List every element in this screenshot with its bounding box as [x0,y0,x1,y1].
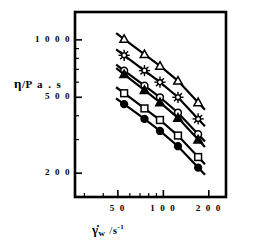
data-point-open-square [121,90,128,97]
y-tick-label: 5 0 0 [45,91,71,101]
data-point-open-square [195,154,202,161]
data-point-open-square [157,117,164,124]
y-axis-unit: P a . s [25,78,62,90]
data-point-open-square [141,105,148,112]
x-tick-label: 5 0 [110,203,126,213]
data-point-filled-circle [141,116,148,123]
x-axis-symbol: γ̇ [92,222,99,237]
x-tick-label: 2 0 0 [196,203,222,213]
y-axis-title: η/P a . s [14,76,62,92]
data-point-filled-circle [175,143,182,150]
y-tick-label: 2 0 0 [45,167,71,177]
y-tick-label: 1 0 0 0 [35,34,71,44]
data-point-open-square [175,132,182,139]
x-tick-label: 1 0 0 [150,203,176,213]
y-axis-symbol: η [14,76,22,91]
x-axis-exponent: -1 [117,223,124,231]
x-axis-subscript: w [99,228,106,238]
x-axis-title: γ̇w /s-1 [92,222,124,238]
data-point-filled-circle [195,164,202,171]
data-point-filled-circle [157,128,164,135]
data-point-filled-circle [121,101,128,108]
